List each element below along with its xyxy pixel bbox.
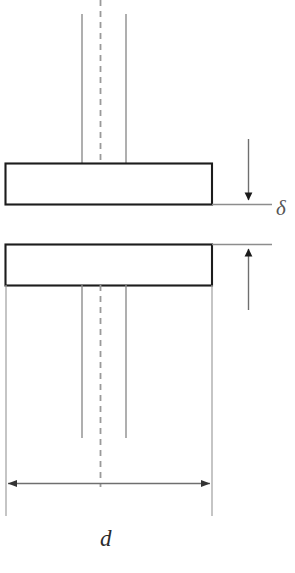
lower-shaft-lines — [82, 285, 126, 438]
bottom-plate — [6, 245, 213, 286]
diagram-canvas: δ d — [0, 0, 295, 573]
plate-gap-diagram — [0, 0, 295, 573]
top-plate — [6, 164, 213, 205]
upper-shaft-lines — [82, 14, 126, 164]
